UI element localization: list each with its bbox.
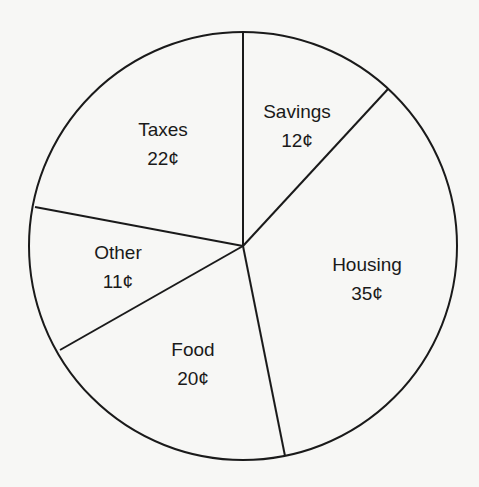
slice-name: Other xyxy=(58,238,178,267)
slice-value: 12¢ xyxy=(237,126,357,155)
slice-value: 22¢ xyxy=(103,144,223,173)
slice-label-housing: Housing 35¢ xyxy=(307,250,427,308)
slice-name: Taxes xyxy=(103,115,223,144)
slice-value: 11¢ xyxy=(58,267,178,296)
slice-name: Savings xyxy=(237,97,357,126)
slice-name: Food xyxy=(133,335,253,364)
slice-label-other: Other 11¢ xyxy=(58,238,178,296)
slice-value: 20¢ xyxy=(133,364,253,393)
slice-name: Housing xyxy=(307,250,427,279)
slice-label-food: Food 20¢ xyxy=(133,335,253,393)
slice-label-savings: Savings 12¢ xyxy=(237,97,357,155)
slice-value: 35¢ xyxy=(307,279,427,308)
slice-label-taxes: Taxes 22¢ xyxy=(103,115,223,173)
